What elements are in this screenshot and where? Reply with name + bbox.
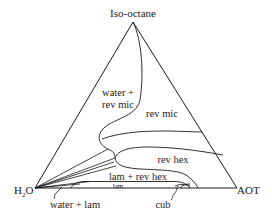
vertex-label-aot: AOT: [237, 184, 260, 196]
vertex-label-isooctane: Iso-octane: [110, 7, 156, 19]
leader-water-lam: [54, 187, 62, 199]
triangle-frame: [35, 22, 237, 188]
callout-label-water-lam: water + lam: [50, 199, 100, 210]
region-label-rev-hex: rev hex: [157, 154, 189, 165]
ternary-phase-diagram: Iso-octane H2O AOT water + rev mic rev m…: [0, 0, 272, 217]
region-label-water-revmic-2: rev mic: [102, 99, 134, 110]
callout-label-cub: cub: [155, 199, 170, 210]
vertex-label-h2o: H2O: [14, 184, 33, 199]
boundary-revmic-revhex-upper: [102, 131, 202, 139]
region-label-rev-mic: rev mic: [146, 108, 178, 119]
tie-lines: [35, 149, 116, 188]
boundary-lam-top: [71, 182, 190, 189]
region-label-water-revmic-1: water +: [102, 87, 134, 98]
region-label-lam-revhex: lam + rev hex: [109, 171, 168, 182]
region-label-lam: lam: [113, 182, 124, 190]
phase-boundaries: [71, 22, 223, 188]
